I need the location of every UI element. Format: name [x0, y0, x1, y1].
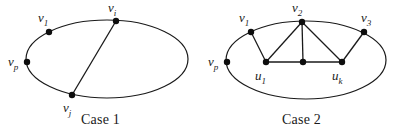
- vertex-um: [300, 59, 306, 65]
- graph-edge-v3-uk: [342, 32, 364, 62]
- vertex-label-v1: v1: [239, 10, 249, 28]
- figure-root: v1vivpvj Case 1 v1v2v3vpu1uk Case 2: [0, 0, 397, 136]
- graph-edge-v2-uk: [302, 22, 342, 62]
- vertex-label-u1: u1: [255, 68, 266, 86]
- vertex-v1: [46, 29, 52, 35]
- vertex-v1: [248, 29, 254, 35]
- case-2-caption: Case 2: [202, 112, 397, 128]
- graph-edge-v2-um: [302, 22, 303, 62]
- vertex-label-vi: vi: [108, 0, 117, 18]
- case-2-panel: v1v2v3vpu1uk Case 2: [198, 0, 397, 136]
- vertex-vj: [69, 92, 75, 98]
- vertex-vi: [113, 18, 119, 24]
- vertex-label-vp: vp: [8, 54, 19, 72]
- vertex-uk: [339, 59, 345, 65]
- graph-edge-vi-vj: [72, 21, 116, 95]
- vertex-label-v3: v3: [361, 10, 372, 28]
- case-2-label-group: v1v2v3vpu1uk: [208, 0, 372, 86]
- vertex-label-v1: v1: [38, 10, 48, 28]
- case-1-caption: Case 1: [1, 112, 200, 128]
- vertex-v3: [361, 29, 367, 35]
- graph-edge-v1-u1: [251, 32, 266, 62]
- case-1-vertex-group: [24, 18, 119, 98]
- vertex-label-vp: vp: [208, 54, 219, 72]
- vertex-u1: [263, 59, 269, 65]
- vertex-vp: [224, 59, 230, 65]
- vertex-label-uk: uk: [332, 68, 344, 86]
- vertex-vp: [24, 59, 30, 65]
- vertex-label-v2: v2: [292, 0, 303, 18]
- vertex-v2: [299, 19, 305, 25]
- case-2-edge-group: [251, 22, 364, 62]
- case-1-label-group: v1vivpvj: [8, 0, 117, 118]
- graph-edge-v2-u1: [266, 22, 302, 62]
- case-1-edge-group: [72, 21, 116, 95]
- case-1-panel: v1vivpvj Case 1: [0, 0, 199, 136]
